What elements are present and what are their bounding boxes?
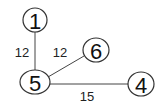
node-5: 5 — [20, 70, 50, 96]
edge-label-1-5: 12 — [15, 45, 29, 60]
node-4: 4 — [128, 72, 154, 98]
graph-diagram: 12 12 15 1 6 5 4 — [0, 0, 162, 107]
edge-label-5-4: 15 — [80, 89, 94, 104]
node-label-1: 1 — [29, 9, 41, 34]
node-label-4: 4 — [135, 73, 147, 98]
edge-label-5-6: 12 — [53, 45, 67, 60]
node-label-6: 6 — [90, 39, 102, 64]
node-1: 1 — [23, 8, 47, 34]
node-label-5: 5 — [29, 71, 41, 96]
node-6: 6 — [83, 38, 109, 64]
